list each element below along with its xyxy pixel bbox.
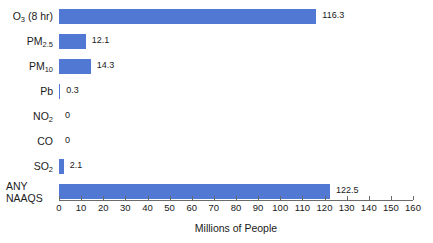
x-axis-tick: [347, 196, 348, 200]
category-label: Pb: [0, 79, 53, 104]
x-axis-tick: [258, 196, 259, 200]
x-axis-tick-label: 160: [405, 202, 421, 214]
x-axis-tick-label: 0: [56, 202, 61, 214]
x-axis-tick: [391, 196, 392, 200]
x-axis-tick-label: 20: [98, 202, 109, 214]
x-axis-tick-label: 100: [272, 202, 288, 214]
x-axis-tick: [325, 196, 326, 200]
bar-row: 0: [59, 104, 413, 129]
x-axis-tick-label: 130: [339, 202, 355, 214]
bar-row: 0: [59, 129, 413, 154]
x-axis-tick: [369, 196, 370, 200]
x-axis-tick: [81, 196, 82, 200]
x-axis-tick-label: 10: [76, 202, 87, 214]
category-label-subscript: 2.5: [43, 40, 53, 49]
bar: [59, 34, 86, 49]
bar-value-label: 2.1: [70, 158, 83, 173]
category-label: PM10: [0, 54, 53, 79]
bar-value-label: 14.3: [97, 58, 115, 73]
bar: [59, 159, 64, 174]
bar: [59, 184, 330, 199]
category-label-line1: ANY: [6, 181, 56, 193]
x-axis-tick: [103, 196, 104, 200]
x-axis-tick-label: 110: [295, 202, 310, 214]
x-axis-tick-label: 150: [383, 202, 399, 214]
category-label-subscript: 2: [49, 165, 53, 174]
x-axis-tick: [236, 196, 237, 200]
bar-value-label: 116.3: [322, 8, 344, 23]
bar: [59, 9, 316, 24]
bar: [59, 59, 91, 74]
bar-row: 2.1: [59, 154, 413, 179]
x-axis-tick: [280, 196, 281, 200]
bar-value-label: 12.1: [92, 33, 110, 48]
x-axis-tick-label: 50: [164, 202, 175, 214]
x-axis-tick: [413, 196, 414, 200]
x-axis-tick-label: 40: [142, 202, 153, 214]
x-axis-tick: [148, 196, 149, 200]
bar-value-label: 0.3: [66, 83, 79, 98]
bar-value-label: 0: [65, 133, 70, 148]
x-axis-tick-label: 60: [186, 202, 197, 214]
x-axis-tick: [192, 196, 193, 200]
x-axis-tick-label: 80: [231, 202, 242, 214]
bar: [59, 84, 60, 99]
x-axis-tick-label: 140: [361, 202, 377, 214]
category-label: O3 (8 hr): [0, 4, 53, 29]
x-axis-tick: [125, 196, 126, 200]
category-label: PM2.5: [0, 29, 53, 54]
category-label-subscript: 10: [45, 65, 53, 74]
x-axis-title: Millions of People: [59, 222, 413, 234]
bar-chart: 116.312.114.30.3002.1122.5 0102030405060…: [0, 0, 433, 243]
category-label: NO2: [0, 104, 53, 129]
bar-row: 116.3: [59, 4, 413, 29]
category-label-line2: NAAQS: [6, 193, 56, 205]
x-axis-tick-label: 70: [209, 202, 220, 214]
x-axis-tick: [302, 196, 303, 200]
category-label: SO2: [0, 154, 53, 179]
x-axis-tick-label: 30: [120, 202, 131, 214]
x-axis-tick-label: 90: [253, 202, 264, 214]
bar-value-label: 0: [65, 108, 70, 123]
category-label-subscript: 2: [49, 115, 53, 124]
bar-row: 14.3: [59, 54, 413, 79]
x-axis-tick: [214, 196, 215, 200]
x-axis-line: [59, 200, 413, 201]
bar-row: 12.1: [59, 29, 413, 54]
plot-area: 116.312.114.30.3002.1122.5: [59, 4, 413, 200]
x-axis-tick: [59, 196, 60, 200]
bar-row: 0.3: [59, 79, 413, 104]
category-label: ANYNAAQS: [6, 179, 56, 205]
x-axis-tick: [170, 196, 171, 200]
category-label: CO: [0, 129, 53, 154]
x-axis-tick-label: 120: [317, 202, 333, 214]
category-label-subscript: 3: [21, 15, 25, 24]
